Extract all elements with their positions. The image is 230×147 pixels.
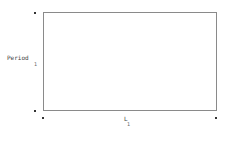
y-axis-top-marker — [34, 12, 36, 14]
x-axis-left-marker — [42, 117, 44, 119]
y-axis-label: Period — [7, 55, 29, 61]
x-axis-label-subscript: 1 — [127, 122, 130, 127]
y-axis-bottom-marker — [34, 110, 36, 112]
x-axis-right-marker — [215, 117, 217, 119]
plot-area — [43, 12, 217, 111]
y-axis-label-subscript: 1 — [34, 62, 37, 67]
